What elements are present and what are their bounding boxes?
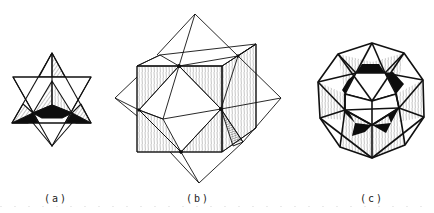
figure-c-compound-polyhedron (318, 43, 424, 158)
figure-label-b: (b) (186, 193, 210, 204)
scan-artifact-line (0, 206, 434, 207)
figure-b-cube-octahedron (115, 14, 281, 183)
figure-label-a: (a) (44, 193, 68, 204)
polyhedra-diagram (0, 0, 434, 213)
figure-label-c: (c) (360, 193, 384, 204)
figure-a-star-tetrahedron (12, 53, 91, 146)
